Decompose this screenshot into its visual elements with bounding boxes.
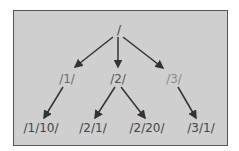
edge-2-21 (95, 87, 115, 118)
edge-2-220 (121, 87, 145, 118)
edge-3-31 (178, 87, 196, 118)
node-2-20: /2/20/ (129, 122, 164, 134)
edge-root-3 (123, 37, 163, 68)
node-2: /2/ (110, 73, 126, 85)
node-3-1: /3/1/ (187, 122, 214, 134)
node-root: / (117, 24, 121, 36)
node-3: /3/ (166, 73, 182, 85)
node-1-10: /1/10/ (23, 122, 58, 134)
node-2-1: /2/1/ (79, 122, 106, 134)
edge-1-110 (44, 87, 63, 118)
node-1: /1/ (59, 73, 75, 85)
edge-root-1 (75, 37, 113, 67)
